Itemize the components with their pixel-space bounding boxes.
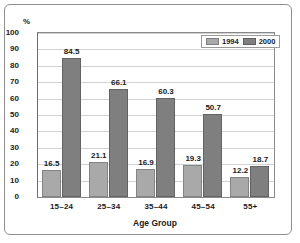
bar — [109, 89, 128, 197]
y-axis-tick-label: 10 — [0, 177, 19, 185]
legend-label: 2000 — [259, 38, 276, 46]
x-axis-tick-label: 55+ — [220, 203, 280, 211]
legend-label: 1994 — [222, 38, 239, 46]
bar — [62, 58, 81, 197]
bar-group — [136, 33, 176, 197]
bar — [156, 98, 175, 197]
y-axis-unit-label: % — [23, 18, 30, 26]
y-axis-tick-label: 100 — [0, 29, 19, 37]
y-axis-tick-label: 90 — [0, 45, 19, 53]
y-axis-tick-label: 80 — [0, 62, 19, 70]
bar-group — [89, 33, 129, 197]
chart-legend: 19942000 — [201, 35, 280, 48]
bar — [183, 165, 202, 197]
bar-group — [230, 33, 270, 197]
y-axis-tick-label: 60 — [0, 95, 19, 103]
bar — [89, 162, 108, 197]
y-axis-tick-label: 20 — [0, 160, 19, 168]
bar-group — [183, 33, 223, 197]
chart-frame: % 0102030405060708090100 16.584.521.166.… — [4, 4, 292, 235]
bar — [203, 114, 222, 197]
y-axis-tick-label: 70 — [0, 78, 19, 86]
y-axis-tick-label: 30 — [0, 144, 19, 152]
bar — [42, 170, 61, 197]
x-axis-title: Age Group — [5, 219, 300, 228]
bar — [250, 166, 269, 197]
legend-item[interactable]: 1994 — [206, 38, 239, 46]
bar — [136, 169, 155, 197]
legend-item[interactable]: 2000 — [243, 38, 276, 46]
y-axis-tick-label: 0 — [0, 193, 19, 201]
bar — [230, 177, 249, 197]
bar-group — [42, 33, 82, 197]
y-axis-tick-label: 40 — [0, 127, 19, 135]
legend-swatch-icon — [243, 38, 256, 45]
legend-swatch-icon — [206, 38, 219, 45]
y-axis-tick-label: 50 — [0, 111, 19, 119]
